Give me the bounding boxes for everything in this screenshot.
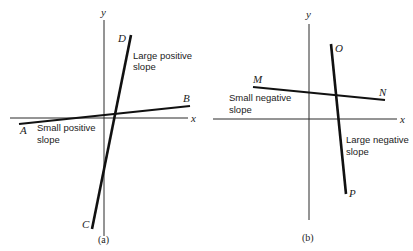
annotation-small-negative-line2: slope (229, 104, 252, 115)
panel-a-x-axis-label: x (190, 112, 196, 124)
line-cd (92, 35, 131, 229)
annotation-small-positive-line2: slope (37, 134, 60, 145)
point-label-n: N (378, 86, 387, 98)
point-label-d: D (117, 32, 126, 44)
annotation-small-positive-line1: Small positive (37, 122, 96, 133)
point-label-p: P (348, 187, 356, 199)
panel-b: y x M N Small negative slope O P Large n… (213, 8, 409, 244)
panel-a-caption: (a) (98, 234, 109, 246)
panel-a-y-axis-label: y (100, 6, 106, 18)
panel-a: y x A B Small positive slope C D Large p… (10, 6, 196, 246)
annotation-large-positive-line1: Large positive (133, 50, 192, 61)
point-label-m: M (252, 73, 263, 85)
point-label-b: B (183, 92, 190, 104)
annotation-small-negative-line1: Small negative (229, 92, 291, 103)
slope-diagram: y x A B Small positive slope C D Large p… (0, 0, 413, 251)
panel-b-y-axis-label: y (305, 8, 311, 20)
annotation-large-negative-line1: Large negative (346, 134, 409, 145)
annotation-large-negative-line2: slope (346, 146, 369, 157)
point-label-a: A (19, 124, 27, 136)
point-label-o: O (335, 42, 343, 54)
point-label-c: C (82, 218, 90, 230)
panel-b-x-axis-label: x (399, 113, 405, 125)
annotation-large-positive-line2: slope (133, 61, 156, 72)
panel-b-caption: (b) (302, 232, 314, 244)
